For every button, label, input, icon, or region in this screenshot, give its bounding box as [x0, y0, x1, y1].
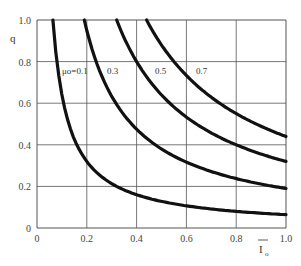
- x-axis-label: I o: [258, 240, 269, 258]
- curve-4: [147, 20, 286, 137]
- svg-text:I: I: [259, 243, 263, 255]
- y-tick-label: 0.8: [19, 57, 32, 68]
- x-tick-label: 1.0: [280, 233, 293, 244]
- curve-label-2: 0.3: [107, 66, 119, 76]
- chart: 00.20.40.60.81.000.20.40.60.81.0 μo=0.10…: [0, 0, 301, 266]
- x-tick-label: 0.2: [81, 233, 94, 244]
- curves: [53, 20, 286, 215]
- grid: [37, 20, 286, 228]
- y-tick-label: 0: [26, 223, 31, 234]
- tick-labels: 00.20.40.60.81.000.20.40.60.81.0: [19, 15, 293, 244]
- curve-label-1: μo=0.1: [62, 66, 88, 76]
- x-tick-label: 0.8: [230, 233, 243, 244]
- x-tick-label: 0: [35, 233, 40, 244]
- y-tick-label: 0.6: [19, 98, 32, 109]
- svg-text:o: o: [265, 250, 269, 258]
- curve-label-3: 0.5: [155, 66, 167, 76]
- y-tick-label: 0.2: [19, 181, 32, 192]
- curve-label-4: 0.7: [196, 66, 208, 76]
- y-axis-label: q: [10, 32, 16, 44]
- curve-1: [53, 20, 286, 215]
- x-tick-label: 0.6: [180, 233, 193, 244]
- x-tick-label: 0.4: [130, 233, 143, 244]
- curve-2: [84, 20, 286, 189]
- y-tick-label: 1.0: [19, 15, 32, 26]
- y-tick-label: 0.4: [19, 140, 32, 151]
